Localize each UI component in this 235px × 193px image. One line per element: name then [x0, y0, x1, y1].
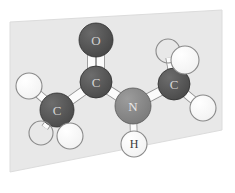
- molecule-figure: OCCNCH: [0, 0, 235, 193]
- atom-h-h1: [121, 131, 147, 157]
- molecule-layer: [0, 0, 235, 193]
- atom-h-h2: [16, 73, 42, 99]
- atom-o-o1: [79, 23, 113, 57]
- atom-h-h4: [57, 123, 83, 149]
- atom-h-h3: [29, 121, 53, 145]
- atom-c-c1: [80, 66, 112, 98]
- atom-h-h7: [190, 95, 216, 121]
- atom-n-n1: [115, 88, 151, 124]
- atom-h-h6: [171, 46, 199, 74]
